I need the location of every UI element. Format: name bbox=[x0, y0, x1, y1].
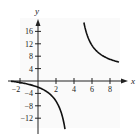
y-tick-label: −8 bbox=[24, 102, 33, 111]
x-axis-arrow-icon bbox=[121, 79, 128, 84]
y-tick-label: 12 bbox=[25, 40, 33, 49]
function-plot: −22468161284−4−8−12 x y bbox=[0, 0, 138, 140]
y-tick-label: 4 bbox=[29, 65, 33, 74]
x-tick-label: 2 bbox=[54, 85, 58, 94]
y-tick-label: 16 bbox=[25, 27, 33, 36]
x-tick-label: −2 bbox=[12, 85, 21, 94]
y-axis-label: y bbox=[34, 6, 39, 16]
x-tick-label: 4 bbox=[72, 85, 76, 94]
x-tick-label: 8 bbox=[108, 85, 112, 94]
plot-background bbox=[20, 18, 120, 128]
x-axis-label: x bbox=[130, 76, 135, 86]
y-tick-label: −12 bbox=[20, 114, 33, 123]
y-tick-label: −4 bbox=[24, 89, 33, 98]
y-tick-label: 8 bbox=[29, 52, 33, 61]
x-tick-label: 6 bbox=[90, 85, 94, 94]
graph-figure: −22468161284−4−8−12 x y bbox=[0, 0, 138, 140]
